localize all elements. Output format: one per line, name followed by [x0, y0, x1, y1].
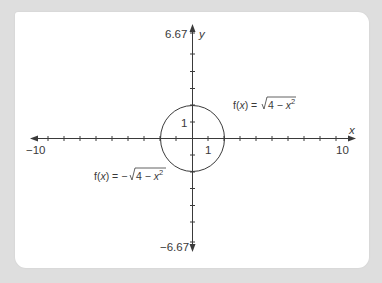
svg-text:f(x) = −: f(x) = − — [94, 170, 127, 182]
y-unit-label: 1 — [181, 117, 187, 129]
x-axis-label: x — [348, 124, 356, 136]
lower-function-label: f(x) = − 4 − x2 — [94, 168, 166, 182]
x-min-label: −10 — [26, 144, 46, 156]
x-axis-right-arrow-icon — [348, 136, 356, 142]
x-axis-left-arrow-icon — [30, 136, 38, 142]
y-axis-down-arrow-icon — [190, 244, 196, 252]
upper-function-label: f(x) = 4 − x2 — [233, 97, 296, 111]
y-max-label: 6.67 — [165, 28, 187, 40]
svg-text:4 − x2: 4 − x2 — [268, 97, 295, 111]
function-graph: 6.67 y −6.67 −10 10 x 1 1 f(x) = 4 − x2 … — [0, 0, 382, 283]
y-axis-up-arrow-icon — [190, 24, 196, 32]
y-min-label: −6.67 — [160, 241, 189, 253]
svg-text:4 − x2: 4 − x2 — [136, 168, 163, 182]
x-max-label: 10 — [336, 144, 349, 156]
x-unit-label: 1 — [205, 144, 211, 156]
y-axis-label: y — [198, 28, 206, 40]
svg-text:f(x) =: f(x) = — [233, 99, 257, 111]
